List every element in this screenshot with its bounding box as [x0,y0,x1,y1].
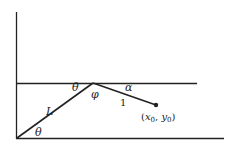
end-point [154,103,158,107]
link-L [17,83,93,138]
label-point-coordinates: (x0, y0) [141,111,176,124]
label-one: 1 [120,97,126,108]
label-phi: φ [91,88,99,101]
label-L: L [45,105,53,118]
diagram: θ φ α L 1 θ (x0, y0) [0,0,228,148]
label-alpha: α [125,81,133,94]
label-theta-bottom: θ [35,126,42,139]
label-theta-top: θ [72,81,79,94]
